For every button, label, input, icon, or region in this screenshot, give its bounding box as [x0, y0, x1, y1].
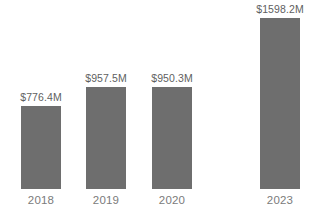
category-label-2019: 2019 — [93, 193, 119, 207]
bar-value-label-2023: $1598.2M — [256, 3, 304, 15]
bar-chart: $776.4M 2018 $957.5M 2019 $950.3M 2020 $… — [0, 0, 318, 216]
bar-group-2023[interactable]: $1598.2M 2023 — [260, 18, 300, 189]
bar-value-label-2019: $957.5M — [85, 72, 127, 84]
category-label-2020: 2020 — [159, 193, 185, 207]
plot-area: $776.4M 2018 $957.5M 2019 $950.3M 2020 $… — [0, 0, 318, 216]
bar-2018[interactable] — [21, 106, 61, 189]
bar-group-2018[interactable]: $776.4M 2018 — [21, 106, 61, 189]
bar-2019[interactable] — [86, 87, 126, 189]
bar-2020[interactable] — [152, 87, 192, 189]
category-label-2023: 2023 — [267, 193, 293, 207]
bar-2023[interactable] — [260, 18, 300, 189]
bar-value-label-2020: $950.3M — [151, 72, 193, 84]
bar-group-2020[interactable]: $950.3M 2020 — [152, 87, 192, 189]
category-label-2018: 2018 — [28, 193, 54, 207]
bar-group-2019[interactable]: $957.5M 2019 — [86, 87, 126, 189]
bar-value-label-2018: $776.4M — [20, 91, 62, 103]
